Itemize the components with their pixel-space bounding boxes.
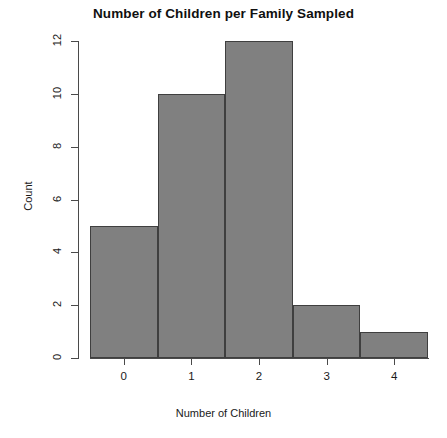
plot-area	[90, 41, 428, 358]
x-axis-tick	[191, 359, 192, 365]
x-axis-tick-label: 0	[104, 370, 144, 382]
y-axis-tick	[71, 252, 78, 253]
y-axis-tick	[71, 200, 78, 201]
y-axis-tick-label: 4	[51, 234, 63, 268]
y-axis-tick-label: 8	[51, 129, 63, 163]
x-axis-tick-label: 1	[171, 370, 211, 382]
y-axis-tick	[71, 358, 78, 359]
y-axis-tick-label: 12	[51, 23, 63, 57]
x-axis-tick-label: 3	[307, 370, 347, 382]
y-axis-tick	[71, 41, 78, 42]
histogram-bar	[225, 41, 293, 358]
histogram-bar	[90, 226, 158, 358]
x-axis-tick-label: 4	[374, 370, 414, 382]
x-axis-tick	[124, 359, 125, 365]
histogram-bar	[293, 305, 361, 358]
y-axis-line	[78, 41, 79, 359]
y-axis-tick	[71, 147, 78, 148]
y-axis-title: Count	[22, 146, 34, 246]
x-axis-tick	[394, 359, 395, 365]
chart-title: Number of Children per Family Sampled	[0, 6, 447, 21]
y-axis-tick-label: 0	[51, 340, 63, 374]
x-axis-title: Number of Children	[0, 407, 447, 419]
histogram-chart: Number of Children per Family Sampled 02…	[0, 0, 447, 438]
histogram-bar	[158, 94, 226, 358]
y-axis-tick-label: 6	[51, 182, 63, 216]
x-axis-tick	[327, 359, 328, 365]
y-axis-tick-label: 2	[51, 287, 63, 321]
x-axis-tick	[259, 359, 260, 365]
x-axis-tick-label: 2	[239, 370, 279, 382]
y-axis-tick	[71, 94, 78, 95]
y-axis-tick	[71, 305, 78, 306]
y-axis-tick-label: 10	[51, 76, 63, 110]
histogram-bar	[360, 332, 428, 358]
